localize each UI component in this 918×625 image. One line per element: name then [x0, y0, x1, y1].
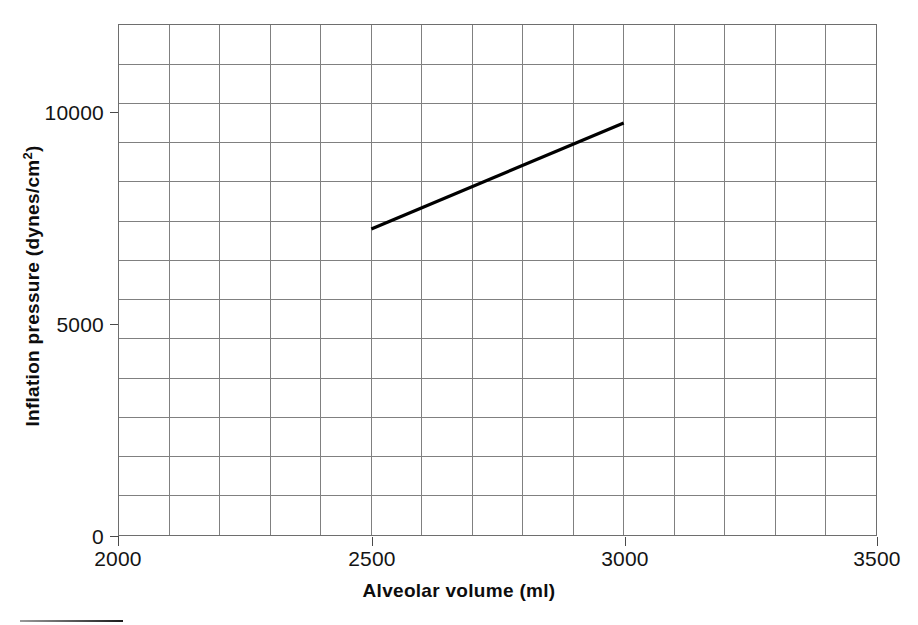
y-axis-title-base: Inflation pressure (dynes/cm	[22, 160, 43, 427]
y-axis-title-superscript: 2	[20, 152, 35, 159]
y-tick-label-10000: 10000	[45, 102, 104, 123]
y-axis-title-tail: )	[22, 145, 43, 152]
x-tick-label-2000: 2000	[94, 548, 142, 569]
x-tick-label-3000: 3000	[601, 548, 649, 569]
x-tick-mark-3000	[625, 537, 626, 546]
data-series-line	[119, 25, 876, 535]
x-axis-title: Alveolar volume (ml)	[0, 580, 918, 602]
y-axis-tick-labels: 10000 5000 0	[0, 0, 104, 625]
plot-area	[118, 24, 877, 536]
y-axis-title-wrapper: Inflation pressure (dynes/cm2)	[20, 26, 46, 546]
y-axis-title: Inflation pressure (dynes/cm2)	[20, 26, 46, 546]
x-tick-mark-2000	[118, 537, 119, 546]
x-axis-tick-labels: 2000 2500 3000 3500	[0, 548, 918, 576]
chart-figure: 10000 5000 0 2000 2500 3000 3500 Alveola…	[0, 0, 918, 625]
footer-rule	[20, 620, 123, 622]
x-tick-mark-2500	[372, 537, 373, 546]
x-tick-label-3500: 3500	[853, 548, 901, 569]
x-tick-mark-3500	[877, 537, 878, 546]
x-tick-label-2500: 2500	[348, 548, 396, 569]
y-tick-label-0: 0	[92, 526, 104, 547]
y-tick-label-5000: 5000	[56, 314, 104, 335]
